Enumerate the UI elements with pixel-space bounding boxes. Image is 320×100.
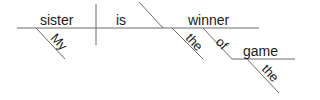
prep-object-word: game	[243, 44, 278, 58]
verb-word: is	[116, 13, 126, 27]
predicate-complement-slant	[139, 2, 163, 28]
predicate-noun-word: winner	[188, 13, 229, 27]
subject-word: sister	[40, 13, 73, 27]
